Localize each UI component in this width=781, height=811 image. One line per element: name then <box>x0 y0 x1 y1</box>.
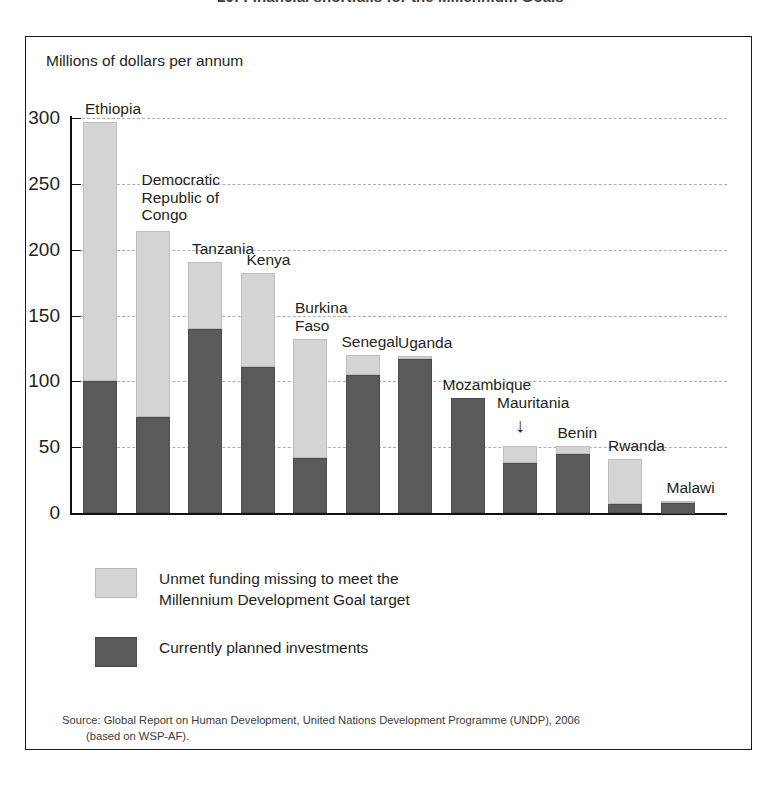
bar-category-label: Kenya <box>247 251 337 268</box>
bar-category-label: Burkina Faso <box>295 299 375 334</box>
bar-mauritania <box>503 446 537 513</box>
bar-ethiopia <box>83 122 117 513</box>
bar-benin <box>556 446 590 513</box>
mauritania-pointer-arrow-icon: ↓ <box>515 414 525 437</box>
bar-category-label: Malawi <box>667 479 747 496</box>
bar-category-label: Rwanda <box>608 437 688 454</box>
bar-senegal <box>346 355 380 513</box>
bar-tanzania <box>188 262 222 513</box>
bar-segment-unmet <box>503 446 537 463</box>
bar-segment-planned <box>136 417 170 513</box>
bar-segment-unmet <box>346 355 380 375</box>
bar-segment-planned <box>451 398 485 513</box>
bar-segment-planned <box>661 503 695 514</box>
bar-mozambique <box>451 398 485 513</box>
legend-swatch-unmet <box>95 568 137 598</box>
gridline <box>72 118 727 119</box>
source-note: Source: Global Report on Human Developme… <box>62 712 712 744</box>
bar-segment-unmet <box>241 273 275 366</box>
y-axis-caption: Millions of dollars per annum <box>46 52 243 70</box>
y-tick-label: 150 <box>8 306 60 325</box>
bar-segment-planned <box>293 458 327 513</box>
bar-category-label: Mozambique <box>443 376 553 393</box>
source-line-2: (based on WSP-AF). <box>62 728 712 744</box>
bar-segment-unmet <box>136 231 170 417</box>
bar-segment-unmet <box>83 122 117 381</box>
legend-swatch-planned <box>95 637 137 667</box>
chart-legend: Unmet funding missing to meet the Millen… <box>95 568 615 693</box>
source-line-1: Source: Global Report on Human Developme… <box>62 714 580 726</box>
bar-segment-planned <box>398 359 432 513</box>
bar-category-label: Democratic Republic of Congo <box>142 171 262 223</box>
y-tick-label: 200 <box>8 240 60 259</box>
bar-category-label: Ethiopia <box>85 100 195 117</box>
bar-uganda <box>398 356 432 513</box>
y-tick-mark <box>72 118 81 119</box>
x-axis-line <box>70 513 727 515</box>
bar-democratic-republic of-congo <box>136 231 170 513</box>
bar-segment-planned <box>83 381 117 513</box>
bar-segment-planned <box>503 463 537 513</box>
y-tick-mark <box>72 316 81 317</box>
bar-burkina-faso <box>293 339 327 513</box>
y-tick-label: 0 <box>8 503 60 522</box>
y-tick-mark <box>72 184 81 185</box>
bar-segment-unmet <box>188 262 222 329</box>
bar-malawi <box>661 501 695 513</box>
bar-segment-planned <box>346 375 380 513</box>
gridline <box>72 316 727 317</box>
y-tick-label: 300 <box>8 108 60 127</box>
bar-segment-planned <box>608 504 642 513</box>
figure-title: 20: Financial shortfalls for the Millenn… <box>0 0 781 5</box>
y-tick-label: 100 <box>8 371 60 390</box>
y-tick-label: 250 <box>8 174 60 193</box>
bar-kenya <box>241 273 275 513</box>
legend-label-planned: Currently planned investments <box>159 637 368 659</box>
bar-category-label: Uganda <box>398 334 478 351</box>
y-tick-mark <box>72 447 81 448</box>
y-tick-label: 50 <box>8 437 60 456</box>
y-axis-line <box>70 116 72 515</box>
bar-segment-planned <box>188 329 222 513</box>
bar-segment-planned <box>241 367 275 513</box>
bar-segment-unmet <box>608 459 642 504</box>
gridline <box>72 250 727 251</box>
bar-rwanda <box>608 459 642 513</box>
y-tick-mark <box>72 381 81 382</box>
legend-label-unmet: Unmet funding missing to meet the Millen… <box>159 568 410 611</box>
bar-segment-unmet <box>556 446 590 454</box>
y-tick-mark <box>72 250 81 251</box>
legend-item-planned: Currently planned investments <box>95 637 615 667</box>
bar-segment-unmet <box>293 339 327 458</box>
legend-item-unmet: Unmet funding missing to meet the Millen… <box>95 568 615 611</box>
bar-segment-planned <box>556 454 590 513</box>
bar-category-label: Mauritania <box>497 394 597 411</box>
